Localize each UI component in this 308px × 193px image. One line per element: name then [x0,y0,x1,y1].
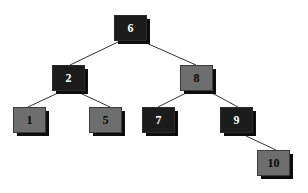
tree-node-8: 8 [180,65,212,90]
node-label: 7 [142,107,175,133]
tree-node-9: 9 [220,107,252,132]
tree-node-2: 2 [52,65,84,90]
node-label: 10 [257,150,290,176]
edge-6-2 [70,42,118,65]
node-label: 9 [220,107,253,133]
tree-node-5: 5 [89,107,121,132]
node-label: 5 [89,107,122,133]
edge-2-1 [28,93,58,107]
node-label: 8 [180,65,213,91]
tree-node-1: 1 [13,107,45,132]
tree-diagram: 6 2 8 1 5 7 9 10 [0,0,308,193]
edge-6-8 [144,42,196,65]
edge-8-7 [158,93,186,107]
tree-node-6: 6 [114,15,146,40]
node-label: 2 [52,65,85,91]
tree-node-7: 7 [142,107,174,132]
edge-9-10 [246,136,276,150]
edge-8-9 [212,93,238,107]
edge-2-5 [80,93,110,107]
node-label: 6 [114,15,147,41]
tree-node-10: 10 [257,150,289,175]
node-label: 1 [13,107,46,133]
